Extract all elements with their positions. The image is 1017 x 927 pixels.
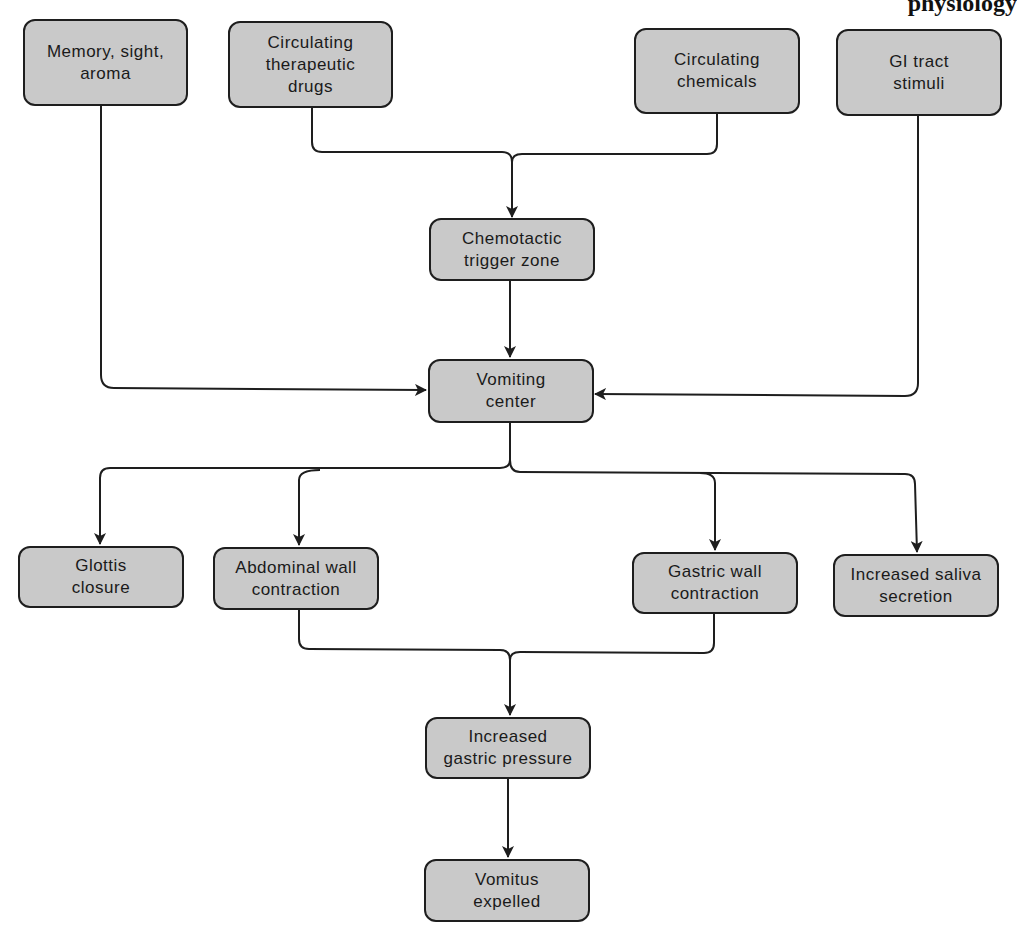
node-chemotactic-trigger-zone: Chemotactic trigger zone [429,218,595,281]
edge-gastric-merge [510,613,714,660]
edge-split-right [510,460,917,552]
node-label: GI tract stimuli [889,51,949,95]
node-circulating-chemicals: Circulating chemicals [634,28,800,114]
node-gi-tract-stimuli: GI tract stimuli [836,29,1002,116]
node-label: Vomitus expelled [473,869,540,913]
edge-abdominal-merge [299,609,510,660]
node-memory-sight-aroma: Memory, sight, aroma [23,19,188,106]
edge-drugs-merge [312,107,512,162]
node-label: Memory, sight, aroma [47,41,164,85]
node-circulating-therapeutic-drugs: Circulating therapeutic drugs [228,21,393,108]
node-increased-gastric-pressure: Increased gastric pressure [425,717,591,779]
node-label: Gastric wall contraction [668,561,762,605]
node-vomitus-expelled: Vomitus expelled [424,859,590,922]
edge-gi-to-vc [595,115,918,396]
edge-split-gastric [700,473,715,550]
node-gastric-wall-contraction: Gastric wall contraction [632,552,798,614]
node-label: Increased gastric pressure [444,726,573,770]
node-label: Circulating therapeutic drugs [266,32,356,98]
node-label: Chemotactic trigger zone [462,228,562,272]
node-label: Increased saliva secretion [851,564,982,608]
node-abdominal-wall-contraction: Abdominal wall contraction [213,547,379,610]
edge-split-abdominal [299,470,320,545]
edge-chemicals-merge [512,113,717,162]
node-increased-saliva-secretion: Increased saliva secretion [833,554,999,617]
connector-layer [0,0,1017,927]
node-label: Vomiting center [476,369,545,413]
node-label: Circulating chemicals [674,49,760,93]
node-label: Abdominal wall contraction [235,557,356,601]
node-label: Glottis closure [72,555,130,599]
node-vomiting-center: Vomiting center [428,359,594,423]
edge-memory-to-vc [101,105,426,390]
node-glottis-closure: Glottis closure [18,546,184,608]
